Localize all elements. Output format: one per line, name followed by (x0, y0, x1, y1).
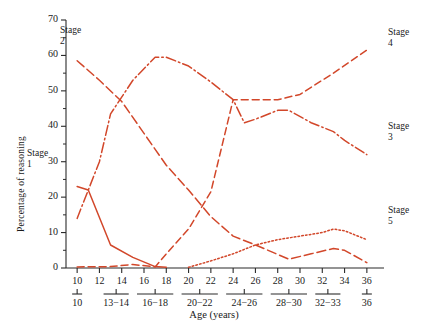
series-label-line2: 3 (388, 132, 409, 143)
y-tick-label: 50 (32, 84, 58, 95)
y-tick-label: 60 (32, 48, 58, 59)
series-label-line1: Stage (388, 121, 409, 132)
series-label-line1: Stage (388, 27, 409, 38)
y-tick-label: 20 (32, 190, 58, 201)
y-axis-title: Percentage of reasoning (16, 136, 26, 232)
series-label-line2: 4 (388, 38, 409, 49)
series-line-5 (189, 229, 367, 267)
series-line-3 (77, 57, 367, 218)
series-label-3: Stage4 (388, 27, 409, 48)
series-label-line2: 1 (27, 159, 48, 170)
y-tick-label: 40 (32, 119, 58, 130)
series-line-1 (77, 187, 166, 268)
x-group-label: 36 (340, 297, 394, 308)
x-axis-title: Age (years) (0, 309, 428, 320)
series-label-line1: Stage (27, 148, 48, 159)
chart-figure: Percentage of reasoning Age (years) 0102… (0, 0, 428, 333)
series-label-line2: 5 (388, 216, 409, 227)
y-tick-label: 70 (32, 13, 58, 24)
series-label-1: Stage2 (60, 25, 81, 46)
series-label-line1: Stage (60, 25, 81, 36)
series-label-5: Stage5 (388, 205, 409, 226)
x-tick-label: 36 (354, 275, 380, 286)
series-label-line2: 2 (60, 36, 81, 47)
series-label-line1: Stage (388, 205, 409, 216)
series-line-4 (77, 50, 367, 267)
y-tick-label: 10 (32, 226, 58, 237)
series-label-4: Stage3 (388, 121, 409, 142)
series-label-2: Stage1 (27, 148, 48, 169)
y-tick-label: 0 (32, 261, 58, 272)
